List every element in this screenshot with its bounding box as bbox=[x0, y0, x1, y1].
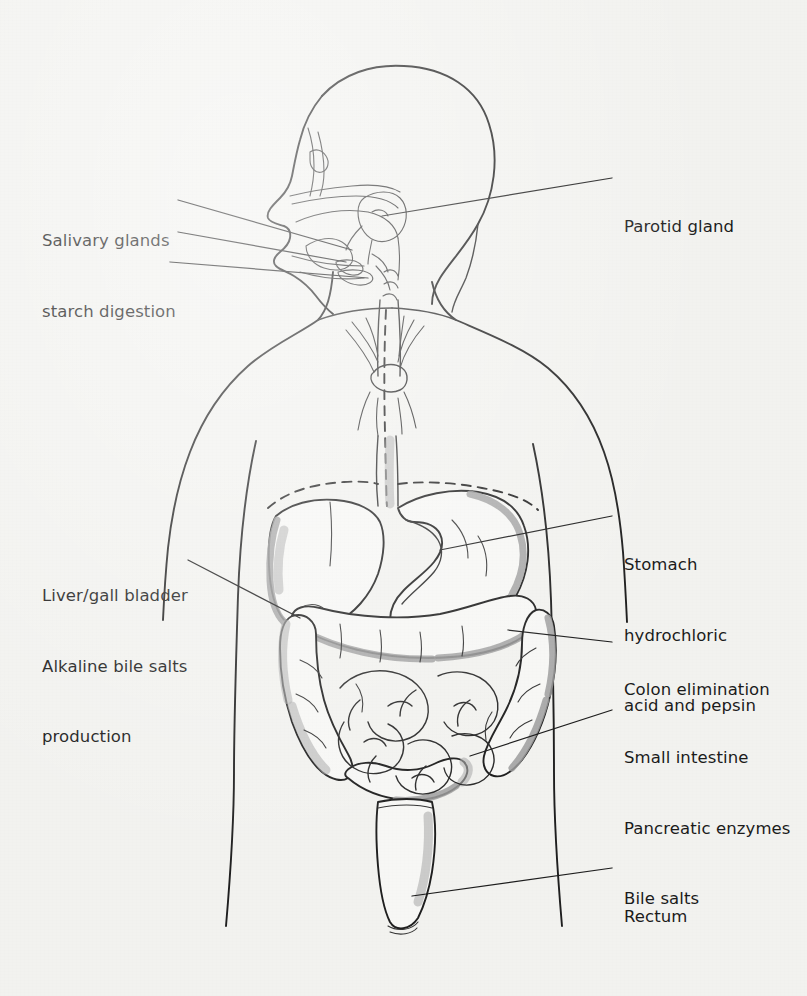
rectum bbox=[377, 799, 436, 934]
label-line: Salivary glands bbox=[42, 229, 176, 253]
nasal-cavity bbox=[290, 128, 400, 208]
label-parotid-gland: Parotid gland bbox=[624, 168, 734, 286]
head-profile bbox=[268, 66, 495, 314]
leader-salivary-2 bbox=[178, 232, 346, 262]
label-line: Rectum bbox=[624, 905, 688, 929]
colon bbox=[280, 596, 556, 801]
label-line: Stomach bbox=[624, 553, 756, 577]
label-line: Pancreatic enzymes bbox=[624, 817, 791, 841]
parotid-gland bbox=[346, 192, 406, 264]
label-line: Parotid gland bbox=[624, 215, 734, 239]
label-line: Alkaline bile salts bbox=[42, 655, 188, 679]
label-line: Liver/gall bladder bbox=[42, 584, 188, 608]
digestive-system-figure: .ol { fill:none; stroke:#1f1f1f; stroke-… bbox=[0, 0, 807, 996]
label-line: production bbox=[42, 725, 188, 749]
leader-rectum bbox=[412, 868, 612, 896]
label-liver-gall-bladder: Liver/gall bladder Alkaline bile salts p… bbox=[42, 537, 188, 796]
leader-salivary-1 bbox=[178, 200, 352, 250]
leader-parotid bbox=[382, 178, 612, 216]
label-salivary-glands: Salivary glands starch digestion bbox=[42, 182, 176, 370]
label-line: Colon elimination bbox=[624, 678, 770, 702]
label-line: Small intestine bbox=[624, 746, 791, 770]
label-line: starch digestion bbox=[42, 300, 176, 324]
label-rectum: Rectum bbox=[624, 858, 688, 976]
